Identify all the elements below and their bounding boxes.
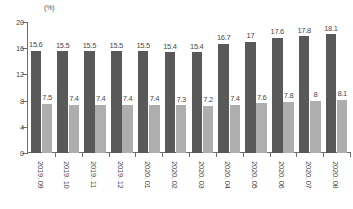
bar-value-label: 15.4 bbox=[160, 42, 180, 51]
bar-group: 17.67.8 bbox=[272, 22, 294, 153]
bar-value-label: 7.3 bbox=[171, 95, 191, 104]
bar-series-light bbox=[95, 105, 106, 153]
x-axis-category-label: 2019. 09 bbox=[36, 161, 45, 189]
y-axis-tick-label: 4 bbox=[4, 123, 24, 132]
bar-value-label: 7.6 bbox=[252, 93, 272, 102]
bar-series-light bbox=[69, 105, 80, 153]
bar-value-label: 7.4 bbox=[91, 94, 111, 103]
bar-group: 15.57.4 bbox=[57, 22, 79, 153]
y-axis-tick-label: 0 bbox=[4, 149, 24, 158]
y-axis-tick-label: 20 bbox=[4, 18, 24, 27]
bar-value-label: 7.8 bbox=[279, 91, 299, 100]
bar-value-label: 7.5 bbox=[37, 93, 57, 102]
bar-value-label: 17 bbox=[241, 31, 261, 40]
bar-series-light bbox=[149, 105, 160, 153]
x-axis-category-label: 2020. 02 bbox=[170, 161, 179, 189]
x-axis-category-label: 2020. 05 bbox=[250, 161, 259, 189]
bar-group: 15.57.4 bbox=[138, 22, 160, 153]
bar-series-light bbox=[283, 102, 294, 153]
bar-value-label: 17.6 bbox=[268, 27, 288, 36]
bar-series-light bbox=[42, 104, 53, 153]
x-axis-category-label: 2020. 07 bbox=[304, 161, 313, 189]
bar-chart: (%) 048121620 15.67.515.57.415.57.415.57… bbox=[0, 0, 353, 209]
bar-value-label: 15.5 bbox=[80, 41, 100, 50]
bar-group: 18.18.1 bbox=[326, 22, 348, 153]
bar-group: 16.77.4 bbox=[218, 22, 240, 153]
x-axis-category-label: 2019. 11 bbox=[89, 161, 98, 188]
bar-value-label: 16.7 bbox=[214, 33, 234, 42]
bar-value-label: 7.4 bbox=[145, 94, 165, 103]
x-axis-category-label: 2020. 01 bbox=[143, 161, 152, 189]
x-axis-tick bbox=[216, 153, 217, 157]
x-axis-tick bbox=[55, 153, 56, 157]
x-axis-category-label: 2020. 06 bbox=[277, 161, 286, 189]
bar-group: 15.47.3 bbox=[165, 22, 187, 153]
bar-group: 15.47.2 bbox=[192, 22, 214, 153]
bar-value-label: 17.8 bbox=[294, 26, 314, 35]
bar-value-label: 7.2 bbox=[198, 95, 218, 104]
bar-series-light bbox=[176, 105, 187, 153]
bar-value-label: 15.6 bbox=[26, 40, 46, 49]
x-axis-tick bbox=[243, 153, 244, 157]
bar-value-label: 7.4 bbox=[225, 94, 245, 103]
bar-group: 15.67.5 bbox=[31, 22, 53, 153]
bar-group: 15.57.4 bbox=[111, 22, 133, 153]
x-axis-category-label: 2020. 04 bbox=[223, 161, 232, 189]
x-axis-tick bbox=[82, 153, 83, 157]
bar-series-light bbox=[256, 103, 267, 153]
bar-group: 15.57.4 bbox=[84, 22, 106, 153]
bar-series-light bbox=[203, 106, 214, 153]
x-axis-tick bbox=[189, 153, 190, 157]
bar-value-label: 15.5 bbox=[133, 41, 153, 50]
bar-group: 177.6 bbox=[245, 22, 267, 153]
x-axis-tick bbox=[109, 153, 110, 157]
bar-value-label: 15.4 bbox=[187, 42, 207, 51]
y-axis-tick-label: 12 bbox=[4, 70, 24, 79]
x-axis-category-label: 2020. 03 bbox=[197, 161, 206, 189]
bar-value-label: 8 bbox=[306, 90, 326, 99]
x-axis-tick bbox=[135, 153, 136, 157]
x-axis-tick bbox=[270, 153, 271, 157]
bar-value-label: 7.4 bbox=[64, 94, 84, 103]
y-axis-unit-label: (%) bbox=[44, 4, 54, 11]
bar-value-label: 18.1 bbox=[321, 24, 341, 33]
bar-series-light bbox=[310, 101, 321, 153]
bar-series-light bbox=[122, 105, 133, 153]
x-axis-category-label: 2019. 12 bbox=[116, 161, 125, 189]
bar-series-light bbox=[230, 105, 241, 153]
y-axis-tick-label: 16 bbox=[4, 44, 24, 53]
x-axis-tick bbox=[296, 153, 297, 157]
bar-series-light bbox=[337, 100, 348, 153]
bar-group: 17.88 bbox=[299, 22, 321, 153]
bar-value-label: 15.5 bbox=[107, 41, 127, 50]
bar-value-label: 8.1 bbox=[332, 89, 352, 98]
x-axis-category-label: 2020. 08 bbox=[331, 161, 340, 189]
y-axis-tick-label: 8 bbox=[4, 97, 24, 106]
bar-value-label: 15.5 bbox=[53, 41, 73, 50]
x-axis-category-label: 2019. 10 bbox=[62, 161, 71, 189]
plot-area: 15.67.515.57.415.57.415.57.415.57.415.47… bbox=[28, 22, 350, 153]
bar-value-label: 7.4 bbox=[118, 94, 138, 103]
x-axis-tick bbox=[162, 153, 163, 157]
x-axis-tick bbox=[323, 153, 324, 157]
x-axis-tick bbox=[350, 153, 351, 157]
